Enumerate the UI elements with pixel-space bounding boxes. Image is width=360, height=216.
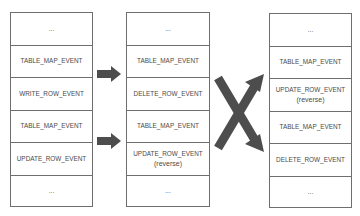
event-label: ... — [308, 26, 313, 35]
event-cell: TABLE_MAP_EVENT — [127, 45, 209, 77]
crossing-arrows-icon — [212, 72, 268, 154]
event-label: TABLE_MAP_EVENT — [20, 57, 82, 66]
event-sublabel: (reverse) — [154, 159, 182, 168]
event-cell: WRITE_ROW_EVENT — [11, 77, 92, 110]
event-label: UPDATE_ROW_EVENT — [17, 155, 86, 164]
event-label: WRITE_ROW_EVENT — [19, 90, 84, 99]
event-cell: DELETE_ROW_EVENT — [127, 77, 209, 110]
event-cell: ... — [127, 175, 209, 206]
event-cell: UPDATE_ROW_EVENT (reverse) — [127, 142, 209, 175]
event-cell: DELETE_ROW_EVENT — [270, 143, 351, 176]
event-cell: TABLE_MAP_EVENT — [11, 110, 92, 142]
event-label: UPDATE_ROW_EVENT — [133, 150, 202, 159]
event-sublabel: (reverse) — [296, 95, 324, 104]
event-cell: ... — [127, 13, 209, 45]
event-cell: UPDATE_ROW_EVENT — [11, 142, 92, 175]
event-cell: ... — [11, 13, 92, 45]
event-cell: TABLE_MAP_EVENT — [270, 111, 351, 143]
event-cell: ... — [11, 175, 92, 206]
event-label: ... — [49, 25, 54, 34]
right-arrow-icon — [97, 66, 121, 82]
event-label: DELETE_ROW_EVENT — [134, 90, 203, 99]
event-label: TABLE_MAP_EVENT — [279, 123, 341, 132]
event-stack-reversed-order: ... TABLE_MAP_EVENT UPDATE_ROW_EVENT (re… — [269, 13, 352, 208]
event-label: TABLE_MAP_EVENT — [137, 122, 199, 131]
event-cell: ... — [270, 14, 351, 46]
event-label: TABLE_MAP_EVENT — [137, 57, 199, 66]
event-label: ... — [308, 188, 313, 197]
event-stack-original: ... TABLE_MAP_EVENT WRITE_ROW_EVENT TABL… — [10, 12, 93, 207]
event-cell: ... — [270, 176, 351, 207]
event-cell: TABLE_MAP_EVENT — [127, 110, 209, 142]
event-label: ... — [165, 25, 170, 34]
event-stack-reversed-events: ... TABLE_MAP_EVENT DELETE_ROW_EVENT TAB… — [126, 12, 210, 207]
event-label: ... — [165, 187, 170, 196]
event-cell: TABLE_MAP_EVENT — [270, 46, 351, 78]
event-label: TABLE_MAP_EVENT — [20, 122, 82, 131]
event-label: DELETE_ROW_EVENT — [276, 156, 345, 165]
event-cell: UPDATE_ROW_EVENT (reverse) — [270, 78, 351, 111]
event-cell: TABLE_MAP_EVENT — [11, 45, 92, 77]
event-label: UPDATE_ROW_EVENT — [276, 86, 345, 95]
event-label: ... — [49, 187, 54, 196]
event-label: TABLE_MAP_EVENT — [279, 58, 341, 67]
right-arrow-icon — [97, 133, 121, 149]
